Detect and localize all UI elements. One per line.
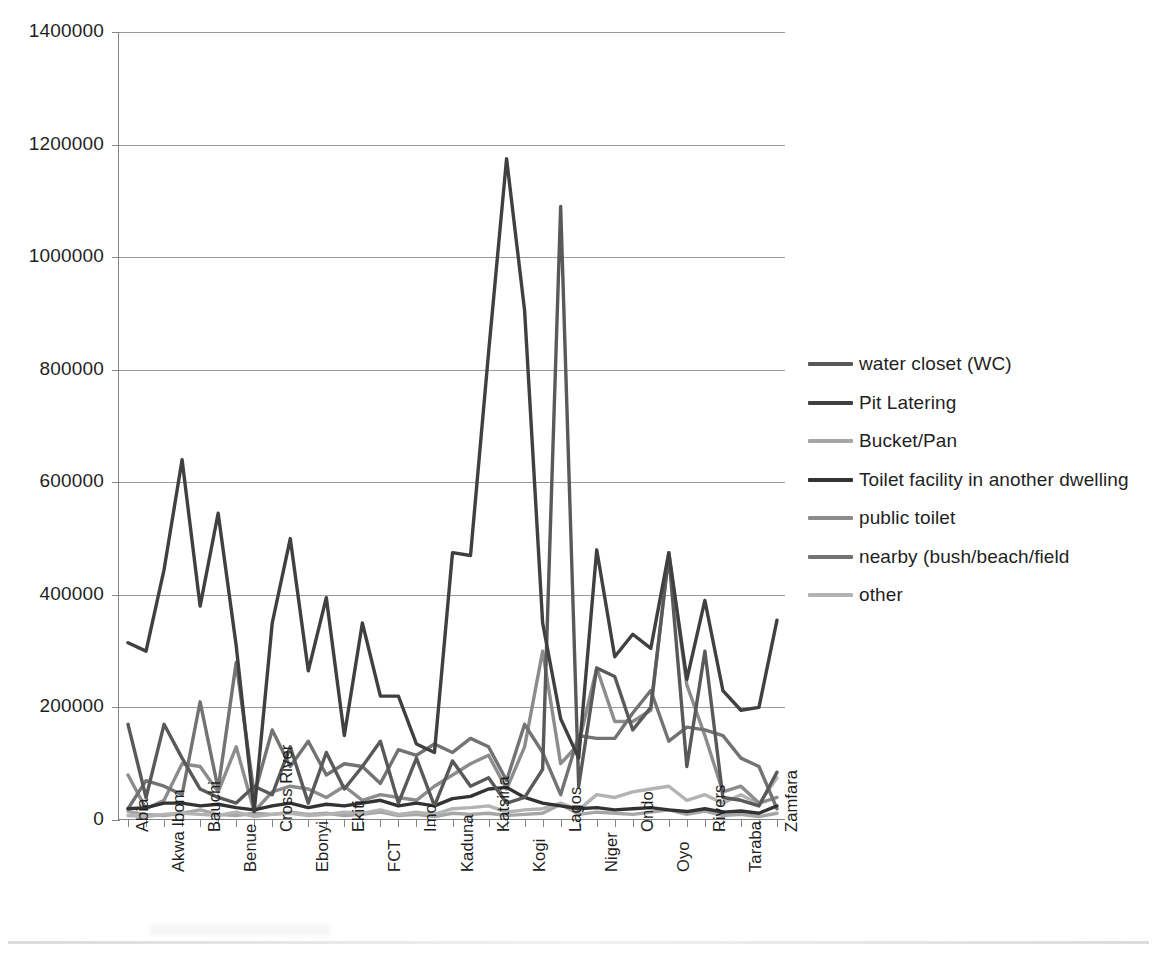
x-axis-tick [416, 819, 417, 827]
y-axis-tick-label: 400000 [39, 583, 104, 605]
y-axis-tick [112, 820, 120, 821]
x-axis-tick [777, 819, 778, 827]
legend-color-swatch [808, 593, 853, 597]
y-axis-tick-label: 1200000 [29, 133, 104, 155]
x-axis-tick [200, 819, 201, 827]
x-axis-tick [669, 819, 670, 827]
x-axis-tick [687, 819, 688, 827]
x-axis-tick-label: Ebonyi [313, 821, 332, 872]
y-axis-tick-label: 0 [93, 808, 104, 830]
x-axis-tick-label: FCT [385, 840, 404, 872]
legend-item[interactable]: other [808, 576, 1153, 615]
x-axis-tick [525, 819, 526, 827]
legend-color-swatch [808, 439, 853, 443]
legend-item-label: Bucket/Pan [859, 430, 957, 452]
x-axis-tick [453, 819, 454, 827]
series-lines [119, 32, 786, 820]
legend-color-swatch [808, 555, 853, 559]
page-edge-line [8, 941, 1149, 944]
x-axis-tick-label: Imo [421, 804, 440, 832]
x-axis-tick [561, 819, 562, 827]
x-axis-tick [615, 819, 616, 827]
x-axis-tick-label: Katsina [494, 776, 513, 832]
legend-color-swatch [808, 516, 853, 520]
x-axis-tick-label: Taraba [746, 821, 765, 872]
x-axis-tick [489, 819, 490, 827]
chart-legend: water closet (WC)Pit LateringBucket/PanT… [808, 345, 1153, 615]
y-axis-tick-label: 1400000 [29, 20, 104, 42]
y-axis-tick-label: 1000000 [29, 245, 104, 267]
legend-item-label: Pit Latering [859, 392, 956, 414]
legend-color-swatch [808, 401, 853, 405]
x-axis-tick [705, 819, 706, 827]
x-axis-tick [597, 819, 598, 827]
x-axis-tick-label: Lagos [566, 787, 585, 832]
legend-item[interactable]: Bucket/Pan [808, 422, 1153, 461]
y-axis-tick-label: 200000 [39, 695, 104, 717]
legend-item-label: other [859, 584, 903, 606]
x-axis-tick-label: Oyo [674, 841, 693, 872]
series-line [128, 159, 777, 812]
legend-item[interactable]: water closet (WC) [808, 345, 1153, 384]
x-axis-tick [236, 819, 237, 827]
x-axis-tick-label: Ekiti [349, 800, 368, 832]
x-axis-tick-label: Zamfara [782, 770, 801, 832]
sanitation-line-chart: 0200000400000600000800000100000012000001… [0, 0, 1157, 962]
x-axis-tick [308, 819, 309, 827]
legend-item-label: public toilet [859, 507, 955, 529]
x-axis-tick-label: Kaduna [458, 815, 477, 873]
legend-item[interactable]: public toilet [808, 499, 1153, 538]
x-axis-tick-label: Bauchi [205, 781, 224, 832]
x-axis-tick [128, 819, 129, 827]
legend-item-label: Toilet facility in another dwelling [859, 469, 1129, 491]
x-axis-tick [543, 819, 544, 827]
legend-item[interactable]: nearby (bush/beach/field [808, 538, 1153, 577]
x-axis-tick [398, 819, 399, 827]
legend-item[interactable]: Toilet facility in another dwelling [808, 461, 1153, 500]
plot-area [118, 32, 785, 820]
legend-item-label: water closet (WC) [859, 353, 1012, 375]
legend-color-swatch [808, 362, 853, 366]
x-axis-tick-label: Abia [133, 799, 152, 832]
x-axis-tick-label: Niger [602, 832, 621, 872]
x-axis-tick-label: Kogi [530, 839, 549, 872]
x-axis-tick [633, 819, 634, 827]
x-axis-tick-label: Ondo [638, 791, 657, 832]
x-axis-tick-label: Rivers [710, 785, 729, 832]
legend-item-label: nearby (bush/beach/field [859, 546, 1069, 568]
x-axis-tick-label: Benue [241, 824, 260, 872]
x-axis-tick [272, 819, 273, 827]
series-line [128, 206, 777, 805]
y-axis-tick-label: 800000 [39, 358, 104, 380]
scan-artifact [150, 924, 330, 936]
legend-item[interactable]: Pit Latering [808, 384, 1153, 423]
x-axis-tick [164, 819, 165, 827]
x-axis-tick [380, 819, 381, 827]
legend-color-swatch [808, 478, 853, 482]
x-axis-tick [344, 819, 345, 827]
x-axis-tick-label: Cross River [277, 745, 296, 832]
y-axis-tick-label: 600000 [39, 470, 104, 492]
x-axis-tick [741, 819, 742, 827]
x-axis-tick-label: Akwa Ibom [169, 789, 188, 872]
